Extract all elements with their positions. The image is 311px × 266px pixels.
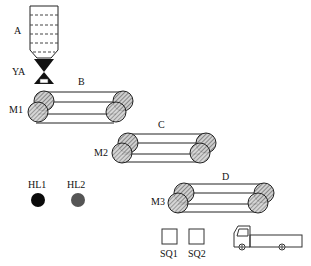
conveyor-b — [28, 91, 133, 123]
label-switch-2: SQ2 — [188, 249, 206, 259]
truck-icon — [234, 226, 302, 250]
lamp-hl1-icon — [31, 193, 45, 207]
conveyor-system-diagram: A YA B C D M1 M2 M3 HL1 HL2 SQ1 SQ2 — [0, 0, 311, 266]
switch-sq2-icon — [189, 229, 204, 244]
diagram-drawing — [0, 0, 311, 266]
label-hopper: A — [14, 26, 21, 36]
label-motor-3: M3 — [151, 197, 165, 207]
switch-sq1-icon — [162, 229, 177, 244]
valve-ya-icon — [34, 59, 54, 84]
label-lamp-1: HL1 — [28, 180, 46, 190]
label-motor-2: M2 — [94, 148, 108, 158]
conveyor-d — [168, 183, 274, 213]
label-conveyor-b: B — [78, 77, 85, 87]
label-switch-1: SQ1 — [160, 249, 178, 259]
label-lamp-2: HL2 — [67, 180, 85, 190]
label-conveyor-c: C — [158, 120, 165, 130]
conveyor-c — [112, 133, 216, 163]
lamp-hl2-icon — [71, 193, 85, 207]
label-motor-1: M1 — [9, 105, 23, 115]
hopper-a — [30, 6, 58, 58]
label-valve: YA — [12, 67, 25, 77]
label-conveyor-d: D — [222, 172, 229, 182]
